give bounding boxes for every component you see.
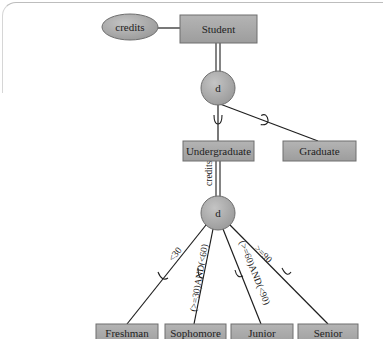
link-graduate (220, 104, 318, 141)
entity-senior: Senior (298, 324, 358, 339)
entity-undergraduate: Undergraduate (183, 141, 254, 161)
entity-label: Graduate (299, 145, 339, 157)
entity-label: Sophomore (170, 327, 221, 339)
entity-junior: Junior (231, 324, 293, 339)
predicate-freshman: <30 (167, 245, 184, 263)
entity-label: Freshman (105, 327, 149, 339)
disjoint-symbol: d (215, 207, 221, 219)
disjoint-circle-bottom: d (201, 196, 235, 230)
entity-sophomore: Sophomore (165, 324, 226, 339)
entity-label: Student (202, 23, 236, 35)
entity-label: Senior (314, 327, 343, 339)
entity-student: Student (180, 15, 257, 43)
defining-attribute-label: credits (204, 160, 214, 186)
entity-freshman: Freshman (96, 324, 158, 339)
entity-graduate: Graduate (283, 141, 356, 161)
disjoint-circle-top: d (201, 71, 235, 105)
attribute-label: credits (115, 21, 144, 33)
predicate-sophomore: (>=30)AND(<60) (188, 243, 211, 312)
disjoint-symbol: d (215, 82, 221, 94)
entity-label: Junior (248, 327, 276, 339)
attribute-credits: credits (102, 14, 158, 40)
entity-label: Undergraduate (186, 145, 251, 157)
subset-symbol-icon (282, 268, 291, 274)
